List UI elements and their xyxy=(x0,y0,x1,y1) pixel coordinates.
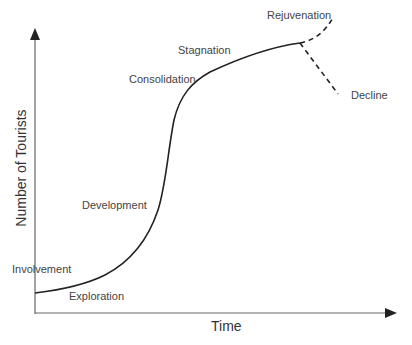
decline-curve xyxy=(300,43,338,94)
label-stagnation: Stagnation xyxy=(178,44,231,56)
label-decline: Decline xyxy=(351,89,388,101)
y-axis-arrow-icon xyxy=(30,28,40,40)
label-development: Development xyxy=(82,199,147,211)
x-axis-arrow-icon xyxy=(385,308,397,318)
label-consolidation: Consolidation xyxy=(129,73,196,85)
x-axis-label: Time xyxy=(211,318,242,334)
label-involvement: Involvement xyxy=(12,263,71,275)
label-rejuvenation: Rejuvenation xyxy=(267,9,331,21)
y-axis-label: Number of Tourists xyxy=(13,103,29,233)
label-exploration: Exploration xyxy=(69,290,124,302)
